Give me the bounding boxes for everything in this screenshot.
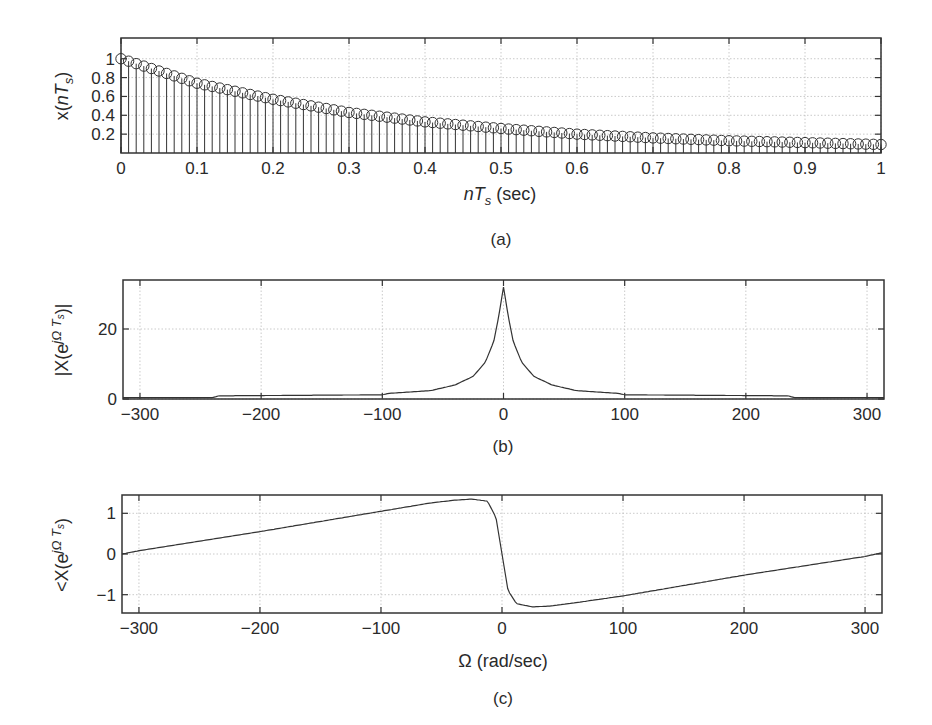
- panel-c-phase: −300−200−1000100200300−101 <X(ejΩ Ts) Ω …: [49, 495, 882, 708]
- x-tick-label: 0.5: [489, 159, 513, 178]
- y-tick-label: −1: [97, 586, 116, 605]
- x-tick-label: −200: [241, 619, 279, 638]
- y-tick-label: 0.8: [91, 69, 115, 88]
- x-tick-label: 0: [499, 405, 508, 424]
- caption-b: (b): [493, 437, 514, 456]
- figure: 00.10.20.30.40.50.60.70.80.910.20.40.60.…: [0, 0, 932, 725]
- x-tick-label: −300: [120, 619, 158, 638]
- x-tick-label: −300: [121, 405, 159, 424]
- y-tick-label: 1: [106, 50, 115, 69]
- y-tick-label: 0.4: [91, 106, 115, 125]
- caption-c: (c): [493, 689, 513, 708]
- y-tick-label: 0: [107, 545, 116, 564]
- x-tick-label: 200: [730, 619, 758, 638]
- y-tick-label: 0.2: [91, 125, 115, 144]
- x-tick-label: 300: [853, 405, 881, 424]
- y-tick-label: 1: [107, 504, 116, 523]
- caption-a: (a): [491, 230, 512, 249]
- panel-a-time-signal: 00.10.20.30.40.50.60.70.80.910.20.40.60.…: [52, 38, 886, 249]
- grid: [123, 280, 884, 399]
- x-tick-label: 200: [732, 405, 760, 424]
- x-tick-label: 100: [610, 405, 638, 424]
- tick-labels: −300−200−1000100200300−101: [97, 504, 880, 638]
- y-axis-label: |X(ejΩ Ts)|: [49, 304, 72, 377]
- x-tick-label: 0.4: [413, 159, 437, 178]
- x-axis-label: Ω (rad/sec): [458, 651, 547, 671]
- y-axis-label: <X(ejΩ Ts): [49, 518, 72, 592]
- magnitude-series: [123, 287, 884, 398]
- x-tick-label: 0.7: [641, 159, 665, 178]
- x-tick-label: 0: [116, 159, 125, 178]
- x-tick-label: 0.6: [565, 159, 589, 178]
- tick-labels: 00.10.20.30.40.50.60.70.80.910.20.40.60.…: [91, 50, 885, 178]
- x-tick-label: −100: [363, 405, 401, 424]
- x-axis-label: nTs (sec): [464, 184, 537, 208]
- x-tick-label: 0: [497, 619, 506, 638]
- x-tick-label: 1: [876, 159, 885, 178]
- x-tick-label: −100: [362, 619, 400, 638]
- x-tick-label: −200: [242, 405, 280, 424]
- y-tick-label: 0.6: [91, 87, 115, 106]
- x-tick-label: 0.8: [717, 159, 741, 178]
- y-axis-label: x(nTs): [52, 72, 76, 121]
- panel-b-magnitude: −300−200−1000100200300020 |X(ejΩ Ts)| (b…: [49, 280, 884, 456]
- x-tick-label: 100: [609, 619, 637, 638]
- x-tick-label: 0.2: [261, 159, 285, 178]
- stem-series: [116, 54, 886, 153]
- x-tick-label: 0.9: [793, 159, 817, 178]
- tick-labels: −300−200−1000100200300020: [98, 320, 881, 424]
- x-tick-label: 300: [851, 619, 879, 638]
- y-tick-label: 0: [108, 390, 117, 409]
- y-tick-label: 20: [98, 320, 117, 339]
- x-tick-label: 0.1: [185, 159, 209, 178]
- x-tick-label: 0.3: [337, 159, 361, 178]
